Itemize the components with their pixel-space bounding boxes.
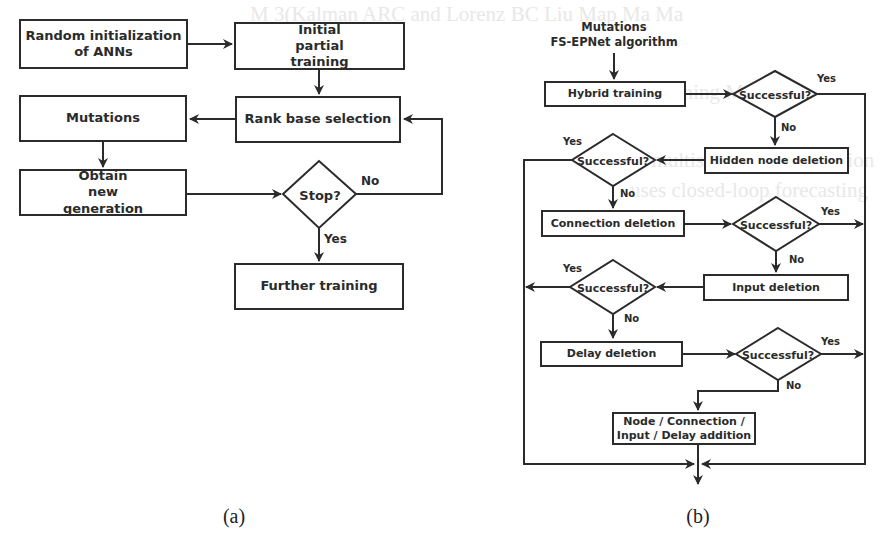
decision-1-yes-label: Yes [817, 73, 836, 84]
stop-yes-label: Yes [324, 232, 347, 246]
delay-deletion-box: Delay deletion [540, 341, 683, 367]
decision-5-no-label: No [786, 380, 801, 391]
stop-no-label: No [361, 174, 379, 188]
decision-1-no-label: No [781, 122, 796, 133]
random-initialization-box: Random initialization of ANNs [19, 19, 188, 69]
decision-3-yes-label: Yes [821, 206, 840, 217]
input-deletion-box: Input deletion [703, 274, 849, 301]
further-training-box: Further training [234, 263, 404, 310]
initial-partial-training-box: Initial partial training [234, 22, 405, 70]
hidden-node-deletion-box: Hidden node deletion [704, 147, 849, 174]
mutations-box: Mutations [19, 95, 187, 142]
decision-2-label: Successful? [577, 155, 649, 168]
decision-1-label: Successful? [739, 89, 811, 102]
addition-line-2: Input / Delay addition [617, 429, 751, 443]
decision-4-yes-label: Yes [563, 263, 582, 274]
edge-d5-no [698, 380, 778, 410]
hybrid-training-box: Hybrid training [544, 81, 686, 107]
decision-2-no-label: No [620, 188, 635, 199]
addition-line-1: Node / Connection / [623, 415, 744, 429]
decision-3-no-label: No [789, 254, 804, 265]
panel-b-title-line1: Mutations [581, 20, 646, 35]
decision-5-label: Successful? [742, 349, 814, 362]
rank-base-selection-box: Rank base selection [235, 96, 401, 143]
decision-4-no-label: No [624, 313, 639, 324]
obtain-new-generation-box: Obtain new generation [19, 169, 187, 216]
panel-b-title-line2: FS-EPNet algorithm [550, 35, 677, 50]
stop-decision-label: Stop? [299, 188, 340, 203]
decision-4-label: Successful? [577, 282, 649, 295]
panel-a-caption: (a) [223, 505, 245, 528]
node-connection-addition-box: Node / Connection / Input / Delay additi… [612, 412, 756, 445]
connection-deletion-box: Connection deletion [541, 210, 685, 237]
decision-5-yes-label: Yes [821, 336, 840, 347]
decision-3-label: Successful? [740, 219, 812, 232]
panel-b-caption: (b) [686, 505, 709, 528]
decision-2-yes-label: Yes [563, 136, 582, 147]
